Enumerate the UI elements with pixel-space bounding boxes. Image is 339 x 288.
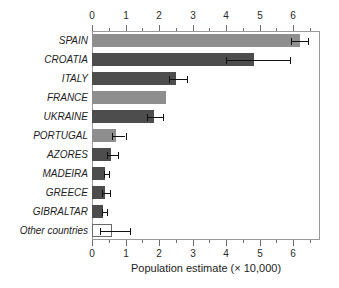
- error-cap-low: [100, 228, 101, 235]
- error-cap-low: [112, 133, 113, 140]
- top-tick-4: [226, 25, 227, 31]
- error-cap-low: [104, 171, 105, 178]
- error-cap-high: [130, 228, 131, 235]
- top-tick-6: [293, 25, 294, 31]
- bottom-tick-label-6: 6: [283, 248, 303, 259]
- bottom-tick-label-5: 5: [250, 248, 270, 259]
- error-cap-high: [126, 133, 127, 140]
- bar-spain: [92, 34, 300, 47]
- top-tick-label-4: 4: [216, 10, 236, 21]
- bottom-tick-6.5: [310, 240, 311, 243]
- top-tick-0.5: [109, 28, 110, 31]
- category-label-madeira: MADEIRA: [0, 168, 88, 179]
- bar-chart: 0123456 0123456 SPAINCROATIAITALYFRANCEU…: [0, 0, 339, 288]
- error-cap-high: [308, 38, 309, 45]
- error-bar-croatia: [226, 60, 290, 61]
- bottom-tick-label-3: 3: [183, 248, 203, 259]
- error-cap-low: [147, 114, 148, 121]
- category-label-portugal: PORTUGAL: [0, 130, 88, 141]
- top-tick-label-0: 0: [82, 10, 102, 21]
- error-cap-high: [109, 171, 110, 178]
- error-cap-high: [290, 57, 291, 64]
- bottom-tick-5: [260, 240, 261, 246]
- top-tick-label-6: 6: [283, 10, 303, 21]
- category-label-italy: ITALY: [0, 73, 88, 84]
- bottom-tick-label-2: 2: [149, 248, 169, 259]
- category-label-france: FRANCE: [0, 92, 88, 103]
- bar-ukraine: [92, 110, 154, 123]
- bottom-tick-1.5: [142, 240, 143, 243]
- top-tick-1: [126, 25, 127, 31]
- top-tick-2.5: [176, 28, 177, 31]
- x-axis-title: Population estimate (× 10,000): [92, 262, 320, 274]
- error-bar-portugal: [112, 136, 125, 137]
- category-label-croatia: CROATIA: [0, 54, 88, 65]
- error-cap-high: [187, 76, 188, 83]
- category-label-azores: AZORES: [0, 149, 88, 160]
- top-tick-6.5: [310, 28, 311, 31]
- bottom-tick-5.5: [276, 240, 277, 243]
- error-cap-high: [163, 114, 164, 121]
- category-label-spain: SPAIN: [0, 35, 88, 46]
- bottom-tick-1: [126, 240, 127, 246]
- bar-italy: [92, 72, 176, 85]
- bottom-tick-3: [193, 240, 194, 246]
- top-tick-label-2: 2: [149, 10, 169, 21]
- top-tick-3: [193, 25, 194, 31]
- top-tick-5.5: [276, 28, 277, 31]
- top-tick-2: [159, 25, 160, 31]
- category-label-gibraltar: GIBRALTAR: [0, 206, 88, 217]
- error-bar-ukraine: [147, 117, 163, 118]
- top-tick-label-3: 3: [183, 10, 203, 21]
- error-cap-low: [102, 209, 103, 216]
- bar-france: [92, 91, 166, 104]
- bottom-tick-2: [159, 240, 160, 246]
- error-cap-low: [102, 190, 103, 197]
- error-cap-high: [107, 209, 108, 216]
- error-cap-low: [107, 152, 108, 159]
- top-tick-0: [92, 25, 93, 31]
- category-label-other-countries: Other countries: [0, 225, 88, 236]
- error-cap-high: [118, 152, 119, 159]
- bottom-tick-3.5: [209, 240, 210, 243]
- bottom-tick-4.5: [243, 240, 244, 243]
- error-bar-greece: [102, 193, 110, 194]
- error-bar-italy: [169, 79, 187, 80]
- bottom-tick-2.5: [176, 240, 177, 243]
- error-bar-other-countries: [100, 231, 129, 232]
- bottom-tick-label-4: 4: [216, 248, 236, 259]
- category-label-ukraine: UKRAINE: [0, 111, 88, 122]
- top-tick-3.5: [209, 28, 210, 31]
- bottom-tick-label-1: 1: [116, 248, 136, 259]
- bottom-tick-6: [293, 240, 294, 246]
- bottom-tick-4: [226, 240, 227, 246]
- bottom-tick-label-0: 0: [82, 248, 102, 259]
- error-cap-low: [169, 76, 170, 83]
- category-label-greece: GREECE: [0, 187, 88, 198]
- top-tick-label-1: 1: [116, 10, 136, 21]
- error-cap-low: [291, 38, 292, 45]
- error-cap-low: [226, 57, 227, 64]
- top-tick-label-5: 5: [250, 10, 270, 21]
- top-tick-1.5: [142, 28, 143, 31]
- error-cap-high: [110, 190, 111, 197]
- top-tick-5: [260, 25, 261, 31]
- bottom-tick-0.5: [109, 240, 110, 243]
- error-bar-azores: [107, 155, 118, 156]
- bottom-tick-0: [92, 240, 93, 246]
- error-bar-spain: [291, 41, 308, 42]
- top-tick-4.5: [243, 28, 244, 31]
